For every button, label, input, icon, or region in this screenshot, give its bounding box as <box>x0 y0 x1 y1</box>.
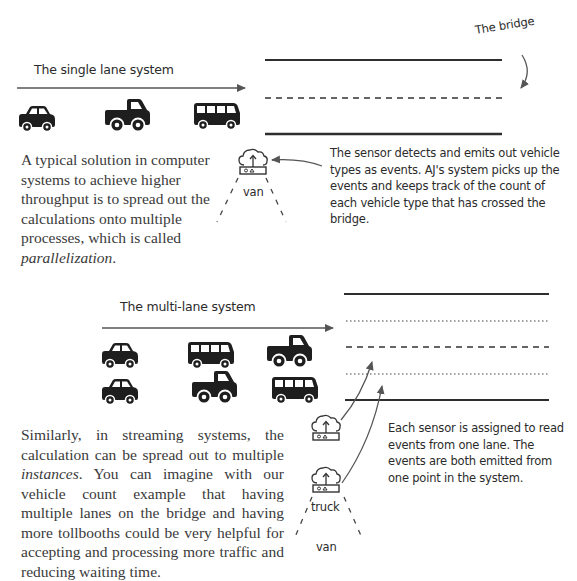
description-text: A typical solution in computer systems t… <box>21 151 210 246</box>
multi-lane-vehicles <box>102 335 318 405</box>
multi-sensor-note: Each sensor is assigned to read events f… <box>388 420 573 486</box>
bus-icon <box>188 342 234 369</box>
sensor-icon <box>239 149 267 174</box>
description-emphasis: parallelization <box>21 249 112 266</box>
single-lane-title: The single lane system <box>34 62 174 77</box>
car-icon <box>19 106 55 132</box>
description-emphasis: instances <box>21 465 79 482</box>
truck-icon <box>105 99 150 132</box>
sensor-note: The sensor detects and emits out vehicle… <box>330 145 575 228</box>
sensor-icon <box>312 467 340 492</box>
multi-lane-description: Similarly, in streaming systems, the cal… <box>21 425 284 581</box>
multi-lane-sensors <box>295 415 362 538</box>
single-lane-bridge <box>265 60 502 134</box>
truck-icon <box>267 335 312 368</box>
sensor-lane-arrows <box>341 362 382 483</box>
description-text-end: . <box>112 249 116 266</box>
multi-lane-bridge <box>344 294 549 400</box>
sensor-note-arrow <box>272 160 322 166</box>
sensor-label-truck: truck <box>311 500 340 514</box>
bridge-pointer-arrow <box>521 55 527 88</box>
single-lane-vehicles <box>19 99 240 132</box>
single-lane-description: A typical solution in computer systems t… <box>21 150 211 267</box>
sensor-icon <box>312 415 340 440</box>
car-icon <box>102 343 138 369</box>
car-icon <box>102 379 138 405</box>
description-text-end: . You can imagine with our vehicle count… <box>21 465 284 580</box>
bus-icon <box>272 377 318 404</box>
truck-icon <box>192 371 237 404</box>
multi-lane-title: The multi-lane system <box>120 299 255 314</box>
sensor-label-van: van <box>243 185 264 199</box>
description-text: Similarly, in streaming systems, the cal… <box>21 426 284 463</box>
sensor-label-van: van <box>316 540 337 554</box>
bus-icon <box>194 103 240 130</box>
